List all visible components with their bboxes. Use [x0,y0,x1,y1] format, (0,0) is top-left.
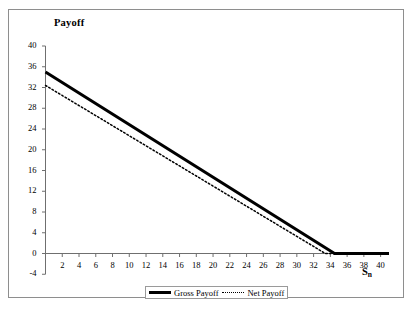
y-tick-label: 0 [19,248,37,258]
x-tick-label: 4 [70,260,88,270]
x-tick-label: 16 [171,260,189,270]
series-line-2 [46,85,390,253]
legend-label: Net Payoff [247,288,284,298]
x-tick-label: 26 [254,260,272,270]
y-tick-label: 12 [19,185,37,195]
y-tick-label: 28 [19,102,37,112]
legend-swatch-dotted-icon [222,292,244,293]
x-tick-label: 22 [221,260,239,270]
y-tick-label: 24 [19,123,37,133]
y-tick-label: 36 [19,61,37,71]
x-tick-label: 32 [305,260,323,270]
x-tick-label: 34 [321,260,339,270]
x-tick-label: 10 [120,260,138,270]
axes-group [42,46,389,274]
series-group [46,72,390,254]
x-tick-label: 8 [104,260,122,270]
figure-root: Payoff Sn -40481216202428323640246810121… [0,0,416,316]
y-tick-label: -4 [19,268,37,278]
series-line-1 [46,72,390,254]
legend-item-1: Gross Payoff [149,288,218,298]
x-tick-label: 30 [288,260,306,270]
y-tick-label: 20 [19,144,37,154]
y-tick-label: 8 [19,206,37,216]
x-tick-label: 38 [355,260,373,270]
x-tick-label: 6 [87,260,105,270]
x-tick-label: 36 [338,260,356,270]
y-tick-label: 4 [19,227,37,237]
x-tick-label: 20 [204,260,222,270]
y-tick-label: 40 [19,40,37,50]
x-tick-label: 12 [137,260,155,270]
legend-label: Gross Payoff [174,288,218,298]
x-tick-label: 28 [271,260,289,270]
x-tick-label: 14 [154,260,172,270]
x-tick-label: 18 [187,260,205,270]
chart-legend: Gross PayoffNet Payoff [145,286,288,299]
x-tick-label: 24 [238,260,256,270]
x-tick-label: 40 [372,260,390,270]
y-tick-label: 16 [19,165,37,175]
y-tick-label: 32 [19,82,37,92]
legend-item-2: Net Payoff [222,288,284,298]
x-tick-label: 2 [53,260,71,270]
legend-swatch-solid-icon [149,291,171,294]
